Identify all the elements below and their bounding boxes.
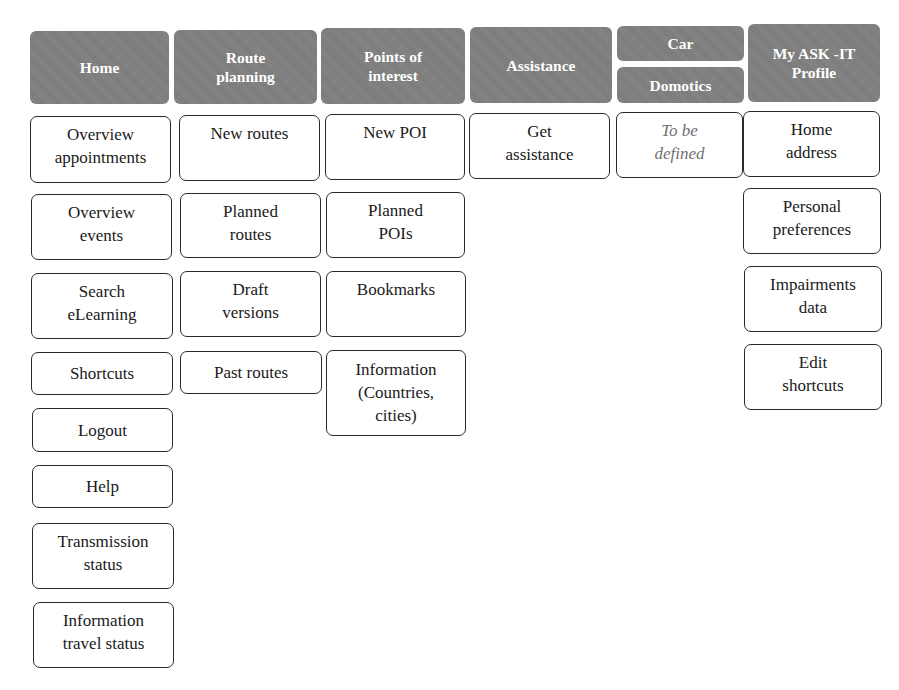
- item-label: shortcuts: [782, 376, 843, 395]
- item-label: eLearning: [68, 305, 137, 324]
- menu-item-to-be-defined: To bedefined: [616, 112, 743, 178]
- item-label: Search: [79, 282, 125, 301]
- item-label: defined: [654, 144, 704, 163]
- menu-item-search-elearning[interactable]: SearcheLearning: [31, 273, 173, 339]
- item-label: events: [80, 226, 123, 245]
- menu-item-planned-pois[interactable]: PlannedPOIs: [326, 192, 465, 258]
- menu-item-impairments-data[interactable]: Impairmentsdata: [744, 266, 882, 332]
- item-label: Overview: [68, 203, 135, 222]
- item-label: address: [786, 143, 837, 162]
- header-label: Points of: [364, 48, 422, 65]
- menu-item-planned-routes[interactable]: Plannedroutes: [180, 193, 321, 258]
- item-label: appointments: [55, 148, 147, 167]
- item-label: Bookmarks: [357, 280, 435, 299]
- item-label: Information: [355, 360, 436, 379]
- item-label: Get: [527, 122, 552, 141]
- menu-item-transmission-status[interactable]: Transmissionstatus: [32, 523, 174, 589]
- item-label: New POI: [363, 123, 427, 142]
- header-label: Assistance: [507, 57, 576, 74]
- item-label: status: [84, 555, 123, 574]
- menu-item-help[interactable]: Help: [32, 465, 173, 508]
- menu-item-overview-appointments[interactable]: Overviewappointments: [30, 116, 171, 183]
- header-domotics[interactable]: Domotics: [617, 67, 744, 103]
- header-label: Car: [668, 35, 694, 52]
- menu-item-logout[interactable]: Logout: [32, 408, 173, 452]
- menu-item-new-poi[interactable]: New POI: [325, 114, 465, 180]
- menu-item-get-assistance[interactable]: Getassistance: [469, 113, 610, 179]
- header-points-of-interest[interactable]: Points ofinterest: [321, 28, 465, 104]
- header-label: interest: [368, 67, 418, 84]
- item-label: New routes: [211, 124, 289, 143]
- item-label: cities): [375, 406, 417, 425]
- item-label: Help: [86, 475, 119, 498]
- item-label: assistance: [506, 145, 574, 164]
- menu-item-shortcuts[interactable]: Shortcuts: [31, 352, 173, 395]
- menu-item-home-address[interactable]: Homeaddress: [743, 111, 880, 177]
- header-home[interactable]: Home: [30, 31, 169, 104]
- item-label: Edit: [799, 353, 827, 372]
- header-label: planning: [216, 68, 275, 85]
- header-my-ask-it-profile[interactable]: My ASK -ITProfile: [748, 24, 880, 102]
- item-label: Planned: [368, 201, 423, 220]
- header-car[interactable]: Car: [617, 26, 744, 61]
- menu-item-new-routes[interactable]: New routes: [179, 115, 320, 181]
- item-label: Information: [63, 611, 144, 630]
- menu-item-past-routes[interactable]: Past routes: [180, 351, 322, 394]
- item-label: Planned: [223, 202, 278, 221]
- header-label: My ASK -IT: [773, 45, 856, 62]
- item-label: preferences: [773, 220, 851, 239]
- item-label: Personal: [783, 197, 842, 216]
- header-label: Route: [226, 49, 266, 66]
- item-label: Overview: [67, 125, 134, 144]
- item-label: Impairments: [770, 275, 856, 294]
- header-label: Home: [80, 59, 120, 76]
- menu-item-overview-events[interactable]: Overviewevents: [31, 194, 172, 260]
- item-label: versions: [222, 303, 279, 322]
- item-label: Logout: [78, 419, 127, 442]
- menu-item-personal-preferences[interactable]: Personalpreferences: [743, 188, 881, 254]
- item-label: Past routes: [214, 361, 288, 384]
- header-label: Domotics: [650, 77, 712, 94]
- header-label: Profile: [792, 64, 836, 81]
- item-label: data: [799, 298, 827, 317]
- item-label: Shortcuts: [70, 362, 134, 385]
- item-label: Draft: [233, 280, 269, 299]
- item-label: Transmission: [57, 532, 148, 551]
- item-label: To be: [661, 121, 698, 140]
- item-label: POIs: [378, 224, 412, 243]
- menu-item-edit-shortcuts[interactable]: Editshortcuts: [744, 344, 882, 410]
- item-label: Home: [791, 120, 833, 139]
- menu-item-bookmarks[interactable]: Bookmarks: [326, 271, 466, 337]
- item-label: (Countries,: [358, 383, 434, 402]
- header-route-planning[interactable]: Routeplanning: [174, 30, 317, 104]
- item-label: travel status: [63, 634, 145, 653]
- menu-item-draft-versions[interactable]: Draftversions: [180, 271, 321, 337]
- menu-item-information-countries-cities[interactable]: Information(Countries,cities): [326, 350, 466, 436]
- item-label: routes: [230, 225, 272, 244]
- menu-item-information-travel-status[interactable]: Informationtravel status: [33, 602, 174, 668]
- header-assistance[interactable]: Assistance: [470, 27, 612, 103]
